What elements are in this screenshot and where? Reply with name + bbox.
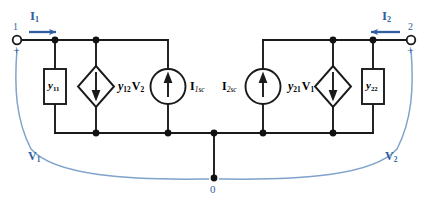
node-dot-bottom-ground [211, 130, 218, 137]
node-dot-top-y21v1 [330, 37, 337, 44]
y21v1-diamond-source [315, 66, 351, 107]
terminal-2-open-circle[interactable] [407, 36, 416, 45]
node-dot-top-y12v2 [93, 37, 100, 44]
i1sc-label: I1sc [190, 80, 205, 94]
voltage-label-v2-sub: 2 [394, 155, 398, 164]
node-dot-bottom-i2sc [260, 130, 267, 137]
terminal-1-number: 1 [13, 22, 18, 32]
y22-label: y22 [366, 80, 378, 93]
node-dot-ground-reference [211, 175, 218, 182]
y22-label-sub: 22 [371, 85, 378, 92]
wire-group [20, 40, 409, 178]
terminal-2-polarity: + [407, 45, 414, 57]
voltage-label-v2: V2 [385, 150, 397, 164]
y12v2-diamond-source [78, 66, 114, 107]
voltage-label-v1-base: V [28, 149, 37, 163]
y11-label-sub: 11 [53, 85, 59, 92]
circuit-diagram-canvas: 1 2 + + I1 I2 y11 y12 V2 I1sc I2sc y21 V… [0, 0, 424, 208]
node-dot-bottom-y12v2 [93, 130, 100, 137]
ground-label: 0 [210, 184, 216, 195]
current-label-i1-sub: 1 [35, 15, 39, 24]
node-dot-top-y22 [370, 37, 377, 44]
terminal-1-open-circle[interactable] [13, 36, 22, 45]
terminal-2-number: 2 [408, 22, 413, 32]
circuit-schematic-svg [0, 0, 424, 208]
current-label-i2: I2 [382, 9, 391, 24]
y12v2-label-ysub: 12 [123, 85, 130, 94]
y21v1-label: y21 V1 [288, 80, 314, 94]
i1sc-circle-source [151, 69, 186, 104]
y12v2-label: y12 V2 [118, 80, 144, 94]
y21v1-label-ysub: 21 [293, 85, 300, 94]
i2sc-label: I2sc [222, 80, 237, 94]
current-label-i1: I1 [30, 9, 39, 24]
voltage-label-v2-base: V [385, 149, 394, 163]
node-dot-bottom-y21v1 [330, 130, 337, 137]
node-dot-bottom-i1sc [165, 130, 172, 137]
voltage-label-v1-sub: 1 [37, 155, 41, 164]
current-label-i2-sub: 2 [387, 15, 391, 24]
y11-label: y11 [48, 80, 59, 93]
i2sc-circle-source [246, 69, 281, 104]
i1sc-label-sub: 1sc [195, 85, 205, 94]
y12v2-label-vsub: 2 [140, 85, 144, 94]
node-dot-top-y11 [52, 37, 59, 44]
voltage-label-v1: V1 [28, 150, 40, 164]
y21v1-label-vsub: 1 [310, 85, 314, 94]
terminal-1-polarity: + [13, 45, 20, 57]
i2sc-label-sub: 2sc [227, 85, 237, 94]
